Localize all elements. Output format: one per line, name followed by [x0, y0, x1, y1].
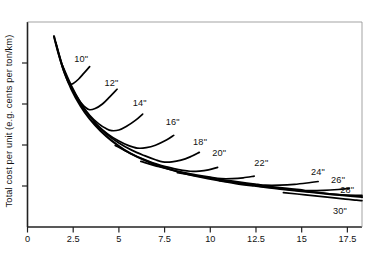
- x-tick-label-0: 0: [8, 234, 48, 244]
- curve-label-10in: 10": [74, 54, 88, 64]
- curve-label-24in: 24": [311, 167, 325, 177]
- y-axis-title: Total cost per unit (e.g. cents per ton/…: [4, 35, 14, 208]
- x-tick-label-7.5: 7.5: [145, 234, 185, 244]
- y-axis-title-container: Total cost per unit (e.g. cents per ton/…: [1, 14, 17, 228]
- curve-label-28in: 28": [340, 185, 354, 195]
- chart-background: [0, 0, 374, 256]
- x-tick-label-12.5: 12.5: [236, 234, 276, 244]
- x-tick-label-17.5: 17.5: [327, 234, 367, 244]
- chart-figure: Total cost per unit (e.g. cents per ton/…: [0, 0, 374, 256]
- x-tick-label-10: 10: [190, 234, 230, 244]
- curve-label-20in: 20": [212, 148, 226, 158]
- x-tick-label-15: 15: [282, 234, 322, 244]
- curve-label-14in: 14": [133, 98, 147, 108]
- curve-label-16in: 16": [166, 117, 180, 127]
- x-tick-label-2.5: 2.5: [53, 234, 93, 244]
- x-tick-label-5: 5: [99, 234, 139, 244]
- curve-label-12in: 12": [104, 78, 118, 88]
- curve-label-30in: 30": [333, 206, 347, 216]
- curve-label-26in: 26": [331, 175, 345, 185]
- curve-label-22in: 22": [254, 158, 268, 168]
- curve-label-18in: 18": [193, 137, 207, 147]
- plot-area: [0, 0, 374, 256]
